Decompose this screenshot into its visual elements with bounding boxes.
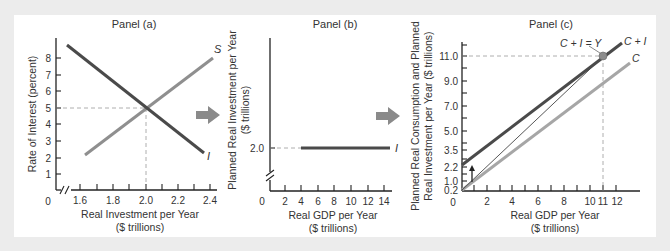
right-arrow-icon — [376, 107, 400, 125]
x-tick: 6 — [535, 196, 541, 207]
x-tick: 10 — [345, 196, 357, 207]
curve-label-S: S — [214, 43, 222, 55]
up-arrow-icon — [469, 165, 475, 171]
panel-b: Panel (b) 0 2 4 6 8 10 12 14 2.0 Real GD… — [226, 18, 398, 234]
x-tick: 12 — [611, 196, 623, 207]
y-tick: 3.5 — [444, 145, 458, 156]
y-axis-label-units: Real Investment per Year ($ trillions) — [422, 31, 434, 200]
y-tick: 2 — [45, 153, 51, 164]
panel-c: Panel (c) 0.2 1.0 2.2 3.5 5.0 7.0 9.0 11… — [409, 18, 647, 234]
curve-label-I: I — [395, 142, 398, 154]
y-axis-label: Planned Real Investment per Year — [226, 30, 238, 190]
x-axis-label: Real Investment per Year — [81, 208, 199, 220]
panel-a: Panel (a) 1 2 3 4 5 6 7 8 — [26, 18, 222, 233]
figure-svg: Panel (a) 1 2 3 4 5 6 7 8 — [0, 0, 670, 251]
x-tick: 11 — [598, 196, 609, 207]
x-tick: 14 — [378, 196, 390, 207]
equilibrium-label: C + I = Y — [560, 37, 602, 49]
x-tick: 10 — [584, 196, 596, 207]
x-tick: 8 — [561, 196, 567, 207]
x-tick: 2.2 — [171, 195, 185, 206]
right-arrow-icon — [196, 106, 220, 124]
x-axis-label-units: ($ trillions) — [116, 221, 164, 233]
y-tick: 1 — [45, 169, 51, 180]
x-tick: 2.4 — [203, 195, 217, 206]
y-tick: 9.0 — [444, 76, 458, 87]
x-axis-label: Real GDP per Year — [510, 209, 600, 221]
panel-a-title: Panel (a) — [112, 18, 157, 30]
y-tick: 1.0 — [444, 176, 458, 187]
origin-label: 0 — [45, 196, 51, 207]
x-tick: 2 — [282, 196, 288, 207]
x-tick: 2.0 — [139, 195, 153, 206]
y-tick: 2.2 — [444, 162, 458, 173]
y-tick: 6 — [45, 86, 51, 97]
panel-b-title: Panel (b) — [313, 18, 358, 30]
y-tick: 5.0 — [444, 126, 458, 137]
x-tick: 8 — [331, 196, 337, 207]
x-axis-label: Real GDP per Year — [288, 209, 378, 221]
y-tick: 8 — [45, 53, 51, 64]
curve-label-C: C — [632, 52, 640, 64]
y-tick: 7.0 — [444, 101, 458, 112]
aggregate-line-C-plus-I — [462, 43, 622, 165]
y-tick: 5 — [45, 103, 51, 114]
x-tick: 1.8 — [106, 195, 120, 206]
x-tick: 4 — [298, 196, 304, 207]
y-axis-label: Planned Real Consumption and Planned — [409, 21, 421, 211]
y-tick: 11.0 — [439, 51, 458, 62]
origin-label: 0 — [450, 197, 456, 208]
x-axis-label-units: ($ trillions) — [309, 222, 357, 234]
equilibrium-point — [599, 52, 607, 60]
curve-label-I: I — [207, 150, 210, 162]
curve-label-C-plus-I: C + I — [624, 35, 647, 47]
y-tick: 3 — [45, 136, 51, 147]
x-tick: 6 — [315, 196, 321, 207]
y-tick: 4 — [45, 119, 51, 130]
panel-c-title: Panel (c) — [529, 18, 573, 30]
y-tick: 2.0 — [250, 143, 264, 154]
y-axis-label-units: ($ trillions) — [239, 86, 251, 134]
origin-label: 0 — [259, 196, 265, 207]
x-tick: 1.6 — [73, 195, 87, 206]
45-degree-line — [462, 52, 608, 190]
x-tick: 4 — [509, 196, 515, 207]
x-tick: 2 — [484, 196, 490, 207]
y-axis-label: Rate of Interest (percent) — [26, 56, 38, 173]
axis-break-icon — [60, 186, 69, 194]
y-tick: 7 — [45, 70, 51, 81]
x-axis-label-units: ($ trillions) — [531, 222, 579, 234]
x-tick: 12 — [362, 196, 374, 207]
consumption-line-C — [462, 63, 630, 190]
investment-curve-I — [67, 45, 204, 153]
